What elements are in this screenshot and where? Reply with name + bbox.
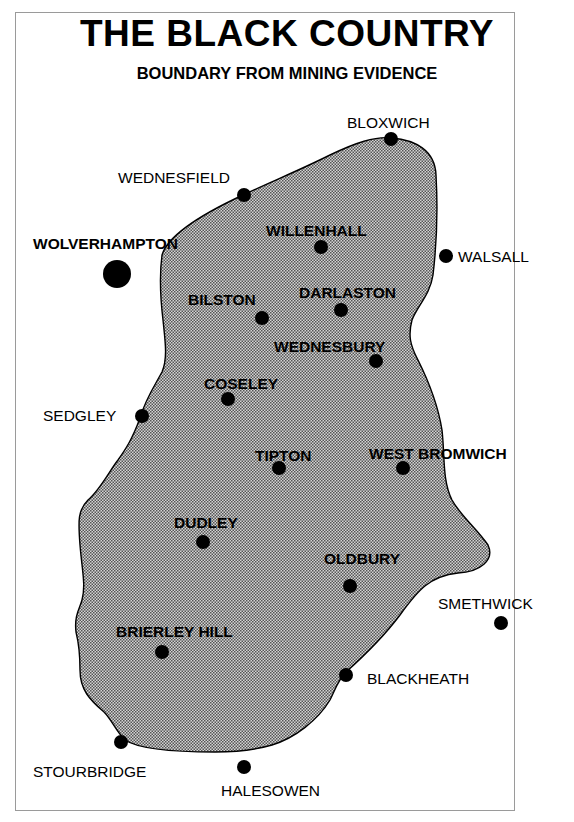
town-label-sedgley: SEDGLEY [43, 407, 116, 424]
town-label-blackheath: BLACKHEATH [367, 670, 469, 687]
town-label-wolverhampton: WOLVERHAMPTON [33, 235, 178, 252]
town-dot-darlaston [334, 303, 348, 317]
town-dot-willenhall [314, 240, 328, 254]
town-dot-halesowen [237, 760, 251, 774]
town-dot-dudley [196, 535, 210, 549]
town-dot-wolverhampton [103, 260, 131, 288]
town-dot-blackheath [339, 668, 353, 682]
town-label-brierley-hill: BRIERLEY HILL [116, 623, 233, 640]
town-label-willenhall: WILLENHALL [266, 222, 367, 239]
town-dot-walsall [439, 249, 453, 263]
town-label-dudley: DUDLEY [174, 514, 238, 531]
town-label-tipton: TIPTON [255, 447, 312, 464]
town-label-wednesbury: WEDNESBURY [274, 338, 386, 355]
town-label-darlaston: DARLASTON [299, 284, 396, 301]
town-dot-wednesbury [369, 354, 383, 368]
town-label-oldbury: OLDBURY [324, 550, 401, 567]
town-dot-oldbury [343, 579, 357, 593]
town-dot-bilston [255, 311, 269, 325]
town-dot-smethwick [494, 616, 508, 630]
town-dot-wednesfield [237, 188, 251, 202]
town-label-smethwick: SMETHWICK [438, 595, 533, 612]
town-dot-stourbridge [114, 735, 128, 749]
town-dot-brierley-hill [155, 645, 169, 659]
town-dot-west-bromwich [396, 461, 410, 475]
town-dot-coseley [221, 392, 235, 406]
town-dot-sedgley [135, 409, 149, 423]
town-dot-bloxwich [384, 132, 398, 146]
town-label-bloxwich: BLOXWICH [347, 114, 430, 131]
town-label-west-bromwich: WEST BROMWICH [369, 445, 507, 462]
town-label-walsall: WALSALL [458, 248, 529, 265]
town-label-wednesfield: WEDNESFIELD [118, 169, 230, 186]
town-label-bilston: BILSTON [188, 291, 256, 308]
town-label-coseley: COSELEY [204, 375, 279, 392]
black-country-map: BLOXWICH WEDNESFIELD WOLVERHAMPTON WILLE… [0, 0, 574, 822]
town-label-halesowen: HALESOWEN [221, 782, 320, 799]
town-label-stourbridge: STOURBRIDGE [33, 763, 146, 780]
